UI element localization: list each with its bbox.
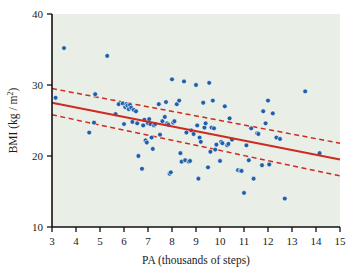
data-point (182, 79, 187, 84)
data-point (162, 115, 167, 120)
data-point (184, 130, 189, 135)
data-point (172, 119, 177, 124)
data-point (62, 46, 67, 51)
data-point (178, 151, 183, 156)
data-point (150, 147, 155, 152)
data-point (156, 102, 161, 107)
y-axis-tick-label: 40 (32, 8, 44, 20)
data-point (246, 158, 251, 163)
data-point (263, 121, 268, 126)
data-point (226, 142, 231, 147)
data-point (242, 191, 247, 196)
data-point (210, 98, 215, 103)
y-axis-tick-label: 10 (32, 221, 44, 233)
data-point (170, 77, 175, 82)
y-axis-tick-label: 20 (32, 150, 44, 162)
data-point (141, 123, 146, 128)
data-point (195, 123, 200, 128)
data-point (249, 126, 254, 131)
data-point (105, 53, 110, 58)
y-axis-title: BMI (kg / m2) (6, 88, 20, 154)
data-point (206, 165, 211, 170)
data-point (256, 132, 261, 137)
data-point (198, 139, 203, 144)
data-point (164, 100, 169, 105)
x-axis-tick-label: 12 (263, 235, 274, 247)
data-point (122, 122, 127, 127)
data-point (214, 142, 219, 147)
x-axis-tick-label: 9 (193, 235, 199, 247)
data-point (53, 95, 58, 100)
data-point (218, 159, 223, 164)
data-point (266, 98, 271, 103)
data-point (222, 104, 227, 109)
x-axis-title: PA (thousands of steps) (142, 254, 250, 267)
data-point (278, 137, 283, 142)
data-point (239, 169, 244, 174)
data-point (212, 126, 217, 131)
x-axis-tick-label: 8 (169, 235, 175, 247)
data-point (270, 111, 275, 116)
data-point (136, 154, 141, 159)
data-point (267, 162, 272, 167)
data-point (149, 135, 154, 140)
data-point (177, 98, 182, 103)
data-point (261, 109, 266, 114)
data-point (87, 130, 92, 135)
x-axis-tick-label: 13 (287, 235, 299, 247)
data-point (201, 100, 206, 105)
data-point (251, 176, 256, 181)
data-point (303, 89, 308, 94)
data-point (194, 83, 199, 88)
data-point (140, 166, 145, 171)
y-axis-tick-label: 30 (32, 79, 44, 91)
data-point (191, 132, 196, 137)
x-axis-tick-label: 4 (73, 235, 79, 247)
data-point (227, 116, 232, 121)
data-point (135, 121, 140, 126)
x-axis-tick-label: 14 (311, 235, 323, 247)
data-point (158, 132, 163, 137)
x-axis-tick-label: 15 (335, 235, 347, 247)
data-point (260, 163, 265, 168)
data-point (144, 140, 149, 145)
data-point (92, 120, 97, 125)
x-axis-tick-label: 3 (49, 235, 55, 247)
data-point (93, 92, 98, 97)
data-point (244, 143, 249, 148)
x-axis-tick-label: 10 (215, 235, 227, 247)
x-axis-tick-label: 7 (145, 235, 151, 247)
data-point (168, 170, 173, 175)
x-axis-tick-label: 6 (121, 235, 127, 247)
x-axis-tick-label: 11 (239, 235, 250, 247)
data-point (130, 120, 135, 125)
data-point (208, 149, 213, 154)
data-point (188, 159, 193, 164)
data-point (220, 141, 225, 146)
data-point (134, 109, 139, 114)
x-axis-tick-label: 5 (97, 235, 103, 247)
data-point (196, 176, 201, 181)
data-point (203, 121, 208, 126)
chart-canvas: 345678910111213141510203040PA (thousands… (0, 0, 356, 277)
scatter-plot-figure: 345678910111213141510203040PA (thousands… (0, 0, 356, 277)
data-point (207, 80, 212, 85)
data-point (282, 196, 287, 201)
data-point (213, 147, 218, 152)
